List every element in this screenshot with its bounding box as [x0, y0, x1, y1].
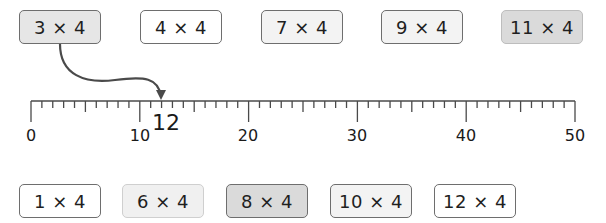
arrowhead-icon: [156, 90, 166, 100]
card-1x4[interactable]: 1 × 4: [19, 184, 101, 218]
tick-label-0: 0: [26, 126, 36, 145]
card-8x4[interactable]: 8 × 4: [226, 184, 308, 218]
marked-value-label: 12: [152, 110, 180, 135]
tick-label-30: 30: [347, 126, 367, 145]
card-label: 8 × 4: [241, 191, 293, 212]
card-label: 1 × 4: [34, 191, 86, 212]
arrow-curve: [60, 44, 161, 96]
tick-label-40: 40: [456, 126, 476, 145]
tick-label-50: 50: [565, 126, 585, 145]
card-6x4[interactable]: 6 × 4: [122, 184, 204, 218]
card-label: 12 × 4: [443, 191, 507, 212]
tick-label-20: 20: [238, 126, 258, 145]
card-12x4[interactable]: 12 × 4: [434, 184, 516, 218]
card-10x4[interactable]: 10 × 4: [330, 184, 412, 218]
card-label: 10 × 4: [339, 191, 403, 212]
card-label: 6 × 4: [137, 191, 189, 212]
tick-label-10: 10: [130, 126, 150, 145]
